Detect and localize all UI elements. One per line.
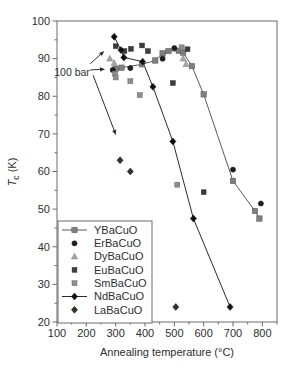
data-point [257,216,262,221]
legend-label: EuBaCuO [94,264,144,276]
data-point [150,83,156,90]
y-tick-label: 90 [38,52,50,64]
chart-figure: 100200300400500600700800 203040506070809… [0,0,291,379]
legend-label: SmBaCuO [94,277,147,289]
x-axis: 100200300400500600700800 [48,322,277,339]
data-point [127,168,133,175]
legend-label: NdBaCuO [94,290,145,302]
data-point [72,241,77,246]
annotation-arrow-head [112,130,116,135]
data-point [258,201,263,206]
data-point [189,63,194,68]
data-point [201,190,206,195]
data-point [173,303,179,310]
y-tick-label: 80 [38,90,50,102]
legend: YBaCuOErBaCuODyBaCuOEuBaCuOSmBaCuONdBaCu… [58,221,152,323]
data-point [153,58,158,63]
y-tick-label: 60 [38,165,50,177]
data-point [227,303,233,310]
series-line-YBaCuO [116,51,260,219]
data-point [140,43,145,48]
data-point [137,93,142,98]
x-tick-label: 100 [48,327,66,339]
data-point [146,49,151,54]
y-tick-label: 50 [38,203,50,215]
data-point [119,65,124,70]
data-point [128,65,133,70]
data-point [113,75,118,80]
data-point [129,46,134,51]
annotation-arrow-line [93,75,115,132]
y-tick-label: 100 [32,15,50,27]
data-point [72,227,77,232]
data-point [160,51,165,56]
x-tick-label: 300 [106,327,124,339]
x-tick-label: 700 [224,327,242,339]
data-point [107,55,113,61]
data-point [190,215,196,222]
data-point [179,45,184,50]
x-tick-label: 200 [77,327,95,339]
chart-canvas: 100200300400500600700800 203040506070809… [0,0,291,379]
data-point [72,268,77,273]
data-point [117,157,123,164]
data-point [252,208,257,213]
legend-label: LaBaCuO [94,304,143,316]
y-tick-label: 20 [38,316,50,328]
data-point [201,92,206,97]
legend-label: YBaCuO [94,224,138,236]
data-point [121,54,127,61]
data-point [111,33,117,40]
y-tick-label: 70 [38,128,50,140]
data-point [230,178,235,183]
data-point [166,48,171,53]
data-point [172,45,177,50]
y-axis: 2030405060708090100 [32,15,57,328]
x-tick-label: 800 [253,327,271,339]
data-point [113,44,118,49]
series-ErBaCuO [110,45,263,206]
data-point [160,56,165,61]
data-point [170,138,176,145]
annotation-arrow-line [90,53,102,64]
legend-label: DyBaCuO [94,250,144,262]
annotation-arrow-head [100,67,105,71]
data-point [175,182,180,187]
x-tick-label: 600 [194,327,212,339]
x-tick-label: 400 [136,327,154,339]
data-point [128,79,133,84]
data-point [72,281,77,286]
annotation-100bar-label: 100 bar [54,66,90,78]
x-axis-title: Annealing temperature (°C) [100,346,234,358]
data-point [185,47,190,52]
y-axis-title: Tc (K) [6,158,21,187]
y-tick-label: 40 [38,241,50,253]
data-point [183,61,189,67]
legend-label: ErBaCuO [94,237,142,249]
y-title-units: (K) [6,158,18,176]
data-point [230,167,235,172]
x-tick-label: 500 [165,327,183,339]
y-tick-label: 30 [38,278,50,290]
data-point [170,81,175,86]
